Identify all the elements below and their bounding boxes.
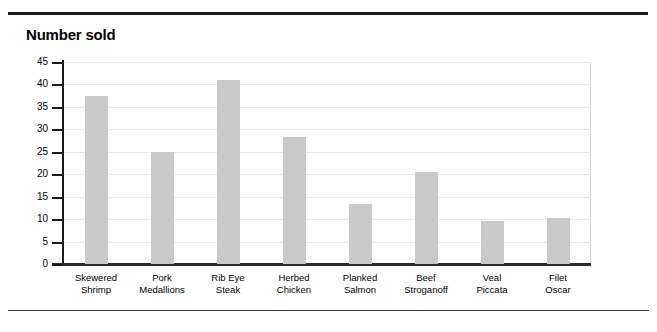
y-axis-tick (52, 62, 63, 64)
bar (349, 204, 372, 264)
y-axis-tick-label: 45 (4, 57, 48, 67)
x-axis-category-label: BeefStroganoff (393, 272, 459, 296)
bar (415, 172, 438, 264)
x-axis-category-label-line: Herbed (261, 272, 327, 284)
x-axis-category-label-line: Stroganoff (393, 284, 459, 296)
x-axis-category-label-line: Salmon (327, 284, 393, 296)
y-axis-tick (52, 107, 63, 109)
bar (151, 152, 174, 264)
y-axis-tick (52, 219, 63, 221)
x-axis-category-label-line: Chicken (261, 284, 327, 296)
x-axis-category-label-line: Planked (327, 272, 393, 284)
x-axis-category-label-line: Oscar (525, 284, 591, 296)
bottom-rule (8, 310, 649, 311)
y-axis-tick (52, 264, 63, 266)
y-axis-tick-label: 35 (4, 102, 48, 112)
y-axis-tick-label: 15 (4, 192, 48, 202)
x-axis-category-label-line: Medallions (129, 284, 195, 296)
x-axis-category-label-line: Steak (195, 284, 261, 296)
x-axis-labels: SkeweredShrimpPorkMedallionsRib EyeSteak… (63, 272, 591, 306)
x-axis-category-label: Rib EyeSteak (195, 272, 261, 296)
y-axis-tick-label: 0 (4, 259, 48, 269)
x-axis-category-label: VealPiccata (459, 272, 525, 296)
y-axis-tick-label: 30 (4, 124, 48, 134)
y-axis-tick (52, 152, 63, 154)
x-axis-category-label-line: Skewered (63, 272, 129, 284)
y-axis-tick-label: 40 (4, 79, 48, 89)
bar (85, 96, 108, 264)
y-axis-tick (52, 174, 63, 176)
x-axis-category-label-line: Filet (525, 272, 591, 284)
x-axis-category-label: SkeweredShrimp (63, 272, 129, 296)
x-axis-category-label: PorkMedallions (129, 272, 195, 296)
y-axis-tick-label: 25 (4, 147, 48, 157)
bar (217, 80, 240, 264)
bar (481, 221, 504, 264)
y-axis-tick (52, 84, 63, 86)
y-axis-tick-label: 10 (4, 214, 48, 224)
y-axis-tick (52, 242, 63, 244)
y-axis-tick-label: 20 (4, 169, 48, 179)
bar (547, 218, 570, 264)
x-axis-category-label: FiletOscar (525, 272, 591, 296)
x-axis-category-label-line: Pork (129, 272, 195, 284)
x-axis-category-label-line: Veal (459, 272, 525, 284)
y-axis-labels: 051015202530354045 (0, 0, 48, 332)
x-axis-category-label-line: Piccata (459, 284, 525, 296)
bar (283, 137, 306, 264)
x-axis-category-label-line: Shrimp (63, 284, 129, 296)
y-axis-tick (52, 129, 63, 131)
bar-series (63, 62, 591, 264)
x-axis-category-label-line: Beef (393, 272, 459, 284)
x-axis-category-label: HerbedChicken (261, 272, 327, 296)
y-axis-tick-label: 5 (4, 237, 48, 247)
y-axis-tick (52, 197, 63, 199)
x-axis-category-label-line: Rib Eye (195, 272, 261, 284)
x-axis-category-label: PlankedSalmon (327, 272, 393, 296)
top-rule (8, 12, 648, 15)
